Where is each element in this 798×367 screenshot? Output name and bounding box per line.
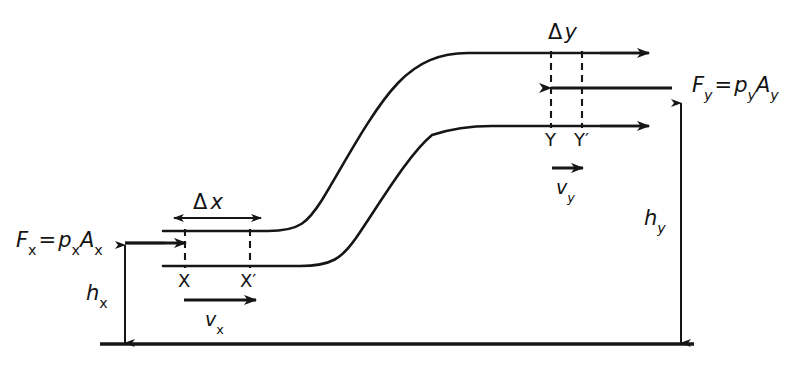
delta-y-label: Δy: [548, 22, 577, 43]
height-x-symbol: h: [86, 281, 99, 305]
delta-x-symbol: Δ: [193, 190, 207, 214]
velocity-y-label: vy: [556, 178, 575, 202]
delta-x-label: Δx: [193, 192, 223, 213]
force-y-subscript: y: [704, 87, 712, 103]
force-x-area-subscript: x: [94, 242, 102, 258]
force-y-label: Fy=pyAy: [692, 75, 779, 99]
force-x-operator: =: [37, 228, 59, 252]
diagram-canvas: [0, 0, 798, 367]
force-y-pressure-subscript: y: [748, 87, 756, 103]
point-y-label: Y: [545, 131, 556, 149]
point-x-label: X: [178, 272, 190, 290]
point-y-prime-label: Y′: [574, 131, 589, 149]
height-y-subscript: y: [657, 220, 665, 236]
velocity-y-symbol: v: [556, 176, 567, 198]
point-x-prime-label: X′: [240, 272, 256, 290]
height-x-label: hx: [86, 283, 108, 307]
height-x-subscript: x: [99, 295, 107, 311]
velocity-x-label: vx: [205, 310, 224, 334]
height-y-label: hy: [644, 208, 666, 232]
flow-tube-diagram: Fx=pxAx Fy=pyAy Δx Δy hx hy vx vy X X′ Y…: [0, 0, 798, 367]
force-y-area-subscript: y: [770, 87, 778, 103]
force-x-pressure-subscript: x: [72, 242, 80, 258]
force-y-operator: =: [713, 73, 735, 97]
velocity-x-subscript: x: [216, 322, 224, 337]
delta-y-variable: y: [562, 20, 576, 44]
velocity-y-subscript: y: [567, 190, 575, 205]
velocity-x-symbol: v: [205, 308, 216, 330]
force-x-subscript: x: [28, 242, 36, 258]
height-y-symbol: h: [644, 206, 657, 230]
delta-y-symbol: Δ: [548, 20, 562, 44]
delta-x-variable: x: [207, 190, 222, 214]
force-x-label: Fx=pxAx: [16, 230, 103, 254]
